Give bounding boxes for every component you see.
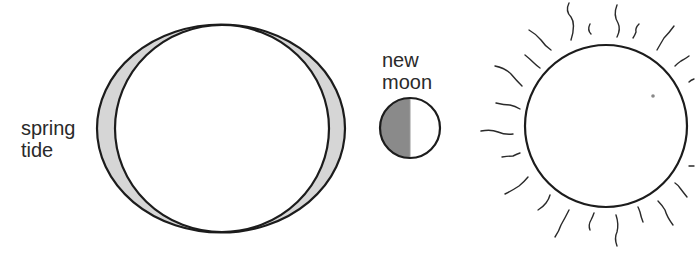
- spring-tide-diagram: [0, 0, 697, 271]
- earth-with-tidal-bulge: [97, 25, 345, 233]
- new-moon: [380, 98, 440, 158]
- spring-tide-label-line2: tide: [21, 139, 75, 161]
- sun: [481, 3, 694, 246]
- sun-disc: [525, 45, 687, 207]
- spring-tide-label: spring tide: [21, 117, 75, 161]
- spring-tide-label-line1: spring: [21, 117, 75, 139]
- moon-shadow-half: [380, 98, 410, 158]
- new-moon-label-line1: new: [382, 49, 432, 71]
- new-moon-label: new moon: [382, 49, 432, 93]
- earth-circle: [115, 25, 329, 232]
- new-moon-label-line2: moon: [382, 71, 432, 93]
- sunspot-mark: [651, 94, 655, 98]
